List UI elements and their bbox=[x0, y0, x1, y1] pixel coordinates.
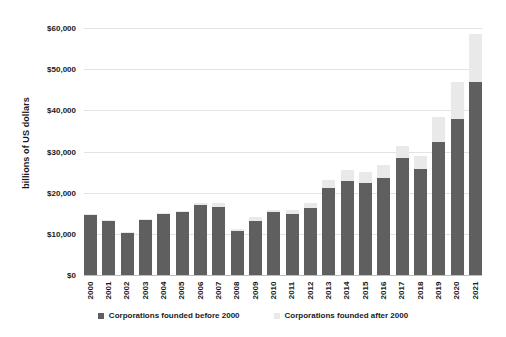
x-axis-tick-label: 2002 bbox=[123, 282, 132, 300]
bar-group[interactable] bbox=[231, 28, 244, 275]
bar-segment-before-2000 bbox=[304, 208, 317, 275]
bar-group[interactable] bbox=[194, 28, 207, 275]
bar-segment-after-2000 bbox=[341, 170, 354, 181]
bar-segment-before-2000 bbox=[84, 215, 97, 276]
bar-group[interactable] bbox=[432, 28, 445, 275]
y-axis-tick-label: $10,000 bbox=[47, 229, 76, 238]
bar-group[interactable] bbox=[469, 28, 482, 275]
x-axis-tick: 2014 bbox=[341, 277, 354, 309]
x-axis-tick: 2019 bbox=[432, 277, 445, 309]
bar-segment-before-2000 bbox=[212, 207, 225, 275]
bar-segment-before-2000 bbox=[157, 214, 170, 275]
x-axis-tick-label: 2014 bbox=[343, 282, 352, 300]
x-axis-tick: 2008 bbox=[231, 277, 244, 309]
x-axis-tick: 2011 bbox=[286, 277, 299, 309]
chart-legend: Corporations founded before 2000Corporat… bbox=[0, 311, 506, 320]
x-axis-tick: 2002 bbox=[121, 277, 134, 309]
bar-segment-before-2000 bbox=[121, 233, 134, 275]
x-axis-tick: 2000 bbox=[84, 277, 97, 309]
bar-segment-before-2000 bbox=[414, 169, 427, 275]
x-axis-tick-label: 2000 bbox=[86, 282, 95, 300]
bar-segment-after-2000 bbox=[322, 180, 335, 189]
x-axis-tick-label: 2001 bbox=[104, 282, 113, 300]
x-axis-tick: 2021 bbox=[469, 277, 482, 309]
x-axis-tick: 2003 bbox=[139, 277, 152, 309]
bar-segment-before-2000 bbox=[396, 158, 409, 275]
bar-segment-after-2000 bbox=[432, 117, 445, 142]
legend-label: Corporations founded before 2000 bbox=[109, 311, 240, 320]
x-axis-tick: 2001 bbox=[102, 277, 115, 309]
bar-group[interactable] bbox=[176, 28, 189, 275]
bar-segment-before-2000 bbox=[377, 178, 390, 275]
bar-group[interactable] bbox=[121, 28, 134, 275]
y-axis-tick-label: $40,000 bbox=[47, 106, 76, 115]
x-axis-tick: 2017 bbox=[396, 277, 409, 309]
x-axis-tick-label: 2012 bbox=[306, 282, 315, 300]
bar-segment-before-2000 bbox=[176, 212, 189, 275]
bar-group[interactable] bbox=[267, 28, 280, 275]
bar-group[interactable] bbox=[377, 28, 390, 275]
y-axis-tick-label: $30,000 bbox=[47, 147, 76, 156]
x-axis-tick: 2006 bbox=[194, 277, 207, 309]
bar-segment-before-2000 bbox=[469, 82, 482, 275]
x-axis-tick-label: 2009 bbox=[251, 282, 260, 300]
legend-item[interactable]: Corporations founded before 2000 bbox=[98, 311, 240, 320]
bar-segment-before-2000 bbox=[102, 221, 115, 275]
bar-segment-before-2000 bbox=[249, 221, 262, 275]
bar-group[interactable] bbox=[102, 28, 115, 275]
x-axis-tick-label: 2006 bbox=[196, 282, 205, 300]
bar-segment-before-2000 bbox=[231, 231, 244, 275]
bar-segment-before-2000 bbox=[322, 188, 335, 275]
bar-group[interactable] bbox=[139, 28, 152, 275]
bar-group[interactable] bbox=[414, 28, 427, 275]
y-axis-tick-label: $20,000 bbox=[47, 188, 76, 197]
bar-group[interactable] bbox=[396, 28, 409, 275]
bar-group[interactable] bbox=[212, 28, 225, 275]
x-axis-tick: 2005 bbox=[176, 277, 189, 309]
plot-area bbox=[84, 28, 482, 275]
x-axis-tick: 2009 bbox=[249, 277, 262, 309]
x-axis-tick: 2016 bbox=[377, 277, 390, 309]
bar-group[interactable] bbox=[304, 28, 317, 275]
x-axis-tick-label: 2008 bbox=[233, 282, 242, 300]
legend-item[interactable]: Corporations founded after 2000 bbox=[274, 311, 409, 320]
x-axis-tick-labels: 2000200120022003200420052006200720082009… bbox=[84, 277, 482, 309]
bar-segment-after-2000 bbox=[469, 34, 482, 82]
x-axis-tick: 2007 bbox=[212, 277, 225, 309]
bar-segment-before-2000 bbox=[451, 119, 464, 275]
x-axis-tick: 2015 bbox=[359, 277, 372, 309]
y-axis-tick-labels: $60,000$50,000$40,000$30,000$20,000$10,0… bbox=[0, 0, 84, 285]
bar-segment-before-2000 bbox=[139, 220, 152, 275]
bar-segment-after-2000 bbox=[414, 156, 427, 168]
y-axis-tick-label: $50,000 bbox=[47, 65, 76, 74]
bar-group[interactable] bbox=[84, 28, 97, 275]
legend-label: Corporations founded after 2000 bbox=[285, 311, 409, 320]
bar-group[interactable] bbox=[359, 28, 372, 275]
bar-segment-before-2000 bbox=[341, 181, 354, 275]
bar-chart: billions of US dollars $60,000$50,000$40… bbox=[0, 0, 506, 337]
x-axis-tick-label: 2019 bbox=[434, 282, 443, 300]
x-axis-tick-label: 2020 bbox=[453, 282, 462, 300]
x-axis-tick: 2012 bbox=[304, 277, 317, 309]
x-axis-tick-label: 2011 bbox=[288, 282, 297, 299]
x-axis-tick: 2004 bbox=[157, 277, 170, 309]
bar-group[interactable] bbox=[157, 28, 170, 275]
bar-group[interactable] bbox=[286, 28, 299, 275]
bar-group[interactable] bbox=[451, 28, 464, 275]
x-axis-tick: 2010 bbox=[267, 277, 280, 309]
bar-group[interactable] bbox=[322, 28, 335, 275]
bar-segment-before-2000 bbox=[267, 212, 280, 275]
bar-group[interactable] bbox=[249, 28, 262, 275]
x-axis-tick: 2018 bbox=[414, 277, 427, 309]
x-axis-tick-label: 2017 bbox=[398, 282, 407, 300]
x-axis-tick: 2013 bbox=[322, 277, 335, 309]
bar-group[interactable] bbox=[341, 28, 354, 275]
bar-segment-after-2000 bbox=[396, 146, 409, 158]
x-axis-tick-label: 2013 bbox=[324, 282, 333, 300]
x-axis-tick-label: 2021 bbox=[471, 282, 480, 300]
x-axis-tick-label: 2010 bbox=[269, 282, 278, 300]
gridline bbox=[84, 275, 482, 276]
bar-segment-after-2000 bbox=[451, 82, 464, 119]
bar-segment-after-2000 bbox=[377, 165, 390, 178]
x-axis-tick-label: 2018 bbox=[416, 282, 425, 300]
